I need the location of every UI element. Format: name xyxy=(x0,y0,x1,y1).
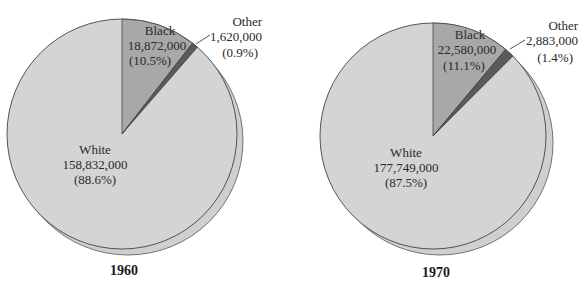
pie-charts-canvas: Black 18,872,000 (10.5%) Other 1,620,000… xyxy=(0,0,588,290)
label-white-1970: White xyxy=(390,145,422,160)
value-black-1970: 22,580,000 xyxy=(438,42,497,57)
label-white-1960: White xyxy=(79,142,111,157)
value-black-1960: 18,872,000 xyxy=(128,38,187,53)
value-other-1970: 2,883,000 xyxy=(526,33,578,48)
value-other-1960: 1,620,000 xyxy=(210,29,262,44)
chart-title-1960: 1960 xyxy=(110,263,138,278)
percent-other-1970: (1.4%) xyxy=(537,50,573,65)
percent-white-1960: (88.6%) xyxy=(74,172,116,187)
pie-chart-1970: Black 22,580,000 (11.1%) Other 2,883,000… xyxy=(320,18,579,280)
percent-black-1960: (10.5%) xyxy=(129,53,171,68)
chart-title-1970: 1970 xyxy=(422,265,450,280)
percent-black-1970: (11.1%) xyxy=(443,58,485,73)
label-black-1960: Black xyxy=(145,23,176,38)
label-other-1960: Other xyxy=(232,14,262,29)
percent-other-1960: (0.9%) xyxy=(222,45,258,60)
pie-chart-1960: Black 18,872,000 (10.5%) Other 1,620,000… xyxy=(7,14,263,278)
value-white-1970: 177,749,000 xyxy=(374,160,439,175)
label-black-1970: Black xyxy=(455,27,486,42)
leader-line-other-1960 xyxy=(196,35,210,44)
leader-line-other-1970 xyxy=(510,40,525,49)
value-white-1960: 158,832,000 xyxy=(63,157,128,172)
label-other-1970: Other xyxy=(548,18,578,33)
percent-white-1970: (87.5%) xyxy=(385,175,427,190)
